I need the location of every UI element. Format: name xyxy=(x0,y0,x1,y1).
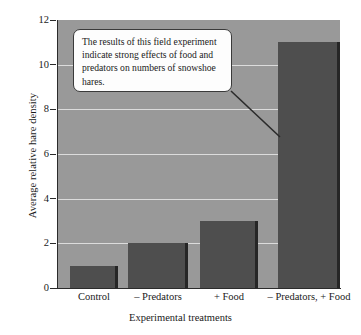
y-axis-line xyxy=(57,20,58,289)
y-axis-tick-mark xyxy=(50,64,56,65)
y-axis-tick-mark xyxy=(50,198,56,199)
y-axis-tick-label: 12 xyxy=(9,13,49,27)
y-axis-tick-label: 4 xyxy=(9,192,49,206)
y-axis-tick-mark xyxy=(50,243,56,244)
y-axis-tick-mark xyxy=(50,109,56,110)
x-axis-line xyxy=(51,288,341,289)
y-axis-tick-mark xyxy=(50,154,56,155)
y-axis: 024681012 xyxy=(0,0,58,335)
bar xyxy=(128,243,188,288)
x-axis-title: Experimental treatments xyxy=(0,312,361,323)
y-axis-tick-label: 10 xyxy=(9,58,49,72)
y-axis-tick-label: 8 xyxy=(9,102,49,116)
bar xyxy=(278,42,340,288)
x-axis: Control– Predators+ Food– Predators, + F… xyxy=(0,291,361,309)
y-axis-tick-mark xyxy=(50,20,56,21)
bar xyxy=(70,266,118,288)
annotation-callout-text: The results of this field experiment ind… xyxy=(82,35,224,88)
y-axis-tick-label: 6 xyxy=(9,147,49,161)
y-axis-tick-label: 2 xyxy=(9,236,49,250)
bar xyxy=(200,221,258,288)
annotation-callout: The results of this field experiment ind… xyxy=(73,29,232,92)
bar-chart-figure: Average relative hare density 024681012 … xyxy=(0,0,361,335)
x-axis-tick-label: – Predators, + Food xyxy=(249,291,361,302)
